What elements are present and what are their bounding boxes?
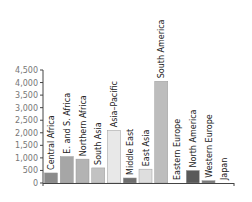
- y-tick-label: 3,500: [15, 91, 38, 100]
- bar-label: Eastern Europe: [173, 119, 182, 180]
- bar-group: Asia–Pacific: [108, 81, 121, 183]
- bar: [155, 81, 168, 183]
- bar-label: Northern Africa: [79, 95, 88, 156]
- y-tick-label: 3,000: [15, 104, 38, 113]
- y-tick-label: 2,500: [15, 116, 38, 125]
- bar-label: Asia–Pacific: [110, 81, 119, 127]
- x-axis: [43, 183, 234, 186]
- bar-group: East Asia: [139, 130, 152, 183]
- y-tick-label: 4,000: [15, 79, 38, 88]
- bar-label: E. and S. Africa: [63, 93, 72, 154]
- bar-label: Middle East: [126, 129, 135, 175]
- y-tick-label: 500: [23, 166, 38, 175]
- bar: [45, 173, 58, 183]
- y-tick-label: 2,000: [15, 129, 38, 138]
- bar-label: Central Africa: [47, 115, 56, 170]
- bar-group: South Asia: [92, 122, 105, 183]
- bar: [60, 157, 73, 183]
- bar-group: E. and S. Africa: [60, 93, 73, 183]
- bar-group: Northern Africa: [76, 95, 89, 183]
- y-tick-label: 0: [33, 179, 38, 188]
- bar-label: South Asia: [94, 122, 103, 165]
- bar: [123, 178, 136, 183]
- bar-group: Western Europe: [202, 114, 215, 183]
- bar-group: Middle East: [123, 129, 136, 183]
- bar-group: South America: [155, 19, 168, 183]
- bar: [76, 159, 89, 183]
- bar: [139, 169, 152, 183]
- bar-label: Western Europe: [205, 114, 214, 178]
- bar-label: South America: [157, 19, 166, 78]
- y-tick-label: 4,500: [15, 66, 38, 75]
- bar-group: Japan: [220, 158, 229, 181]
- bar-label: Japan: [220, 158, 229, 181]
- bar: [108, 130, 121, 183]
- bar-label: East Asia: [142, 130, 151, 167]
- bar: [202, 181, 215, 183]
- y-tick-label: 1,000: [15, 154, 38, 163]
- bar-group: North America: [186, 109, 199, 183]
- y-axis: 05001,0001,5002,0002,5003,0003,5004,0004…: [15, 66, 43, 188]
- bar: [92, 168, 105, 183]
- bar-group: Eastern Europe: [173, 119, 182, 180]
- bar-chart: 05001,0001,5002,0002,5003,0003,5004,0004…: [0, 0, 252, 202]
- bars: Central AfricaE. and S. AfricaNorthern A…: [45, 19, 230, 183]
- bar-label: North America: [189, 109, 198, 167]
- bar: [186, 170, 199, 183]
- y-tick-label: 1,500: [15, 141, 38, 150]
- bar-group: Central Africa: [45, 115, 58, 183]
